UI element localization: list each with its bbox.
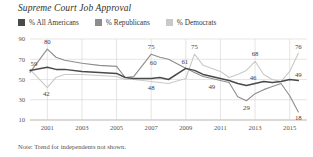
legend-label-2: % Democrats (177, 18, 217, 27)
data-label-80-0: 80 (44, 38, 51, 45)
line-chart-svg: 1030507090 20012003200520072009201120132… (0, 33, 313, 138)
chart-title: Supreme Court Job Approval (18, 3, 131, 13)
chart-footnote: Note: Trend for independents not shown. (18, 143, 126, 150)
data-label-68-9: 68 (252, 50, 259, 57)
data-label-42-2: 42 (43, 90, 50, 97)
x-tick-label-2009: 2009 (179, 124, 193, 131)
plot-area: 1030507090 20012003200520072009201120132… (0, 33, 313, 138)
y-tick-label-10: 10 (18, 116, 25, 123)
legend-item-2: % Democrats (166, 18, 217, 27)
data-label-46-10: 46 (250, 74, 257, 81)
data-label-29-11: 29 (243, 104, 250, 111)
chart-card: Supreme Court Job Approval % All America… (0, 0, 313, 157)
data-label-48-5: 48 (148, 84, 155, 91)
legend-label-0: % All Americans (29, 18, 79, 27)
data-label-75-6: 75 (191, 43, 198, 50)
x-tick-label-2007: 2007 (145, 124, 159, 131)
x-tick-label-2015: 2015 (283, 124, 297, 131)
data-label-49-8: 49 (208, 83, 215, 90)
x-tick-label-2001: 2001 (41, 124, 54, 131)
data-label-59-1: 59 (31, 60, 38, 67)
legend-swatch-all-americans (18, 19, 25, 26)
legend-swatch-democrats (166, 19, 173, 26)
data-label-18-14: 18 (295, 114, 302, 121)
series-lines-group (30, 49, 298, 112)
x-tick-label-2011: 2011 (214, 124, 227, 131)
chart-legend: % All Americans% Republicans% Democrats (18, 18, 232, 27)
x-axis-tick-labels: 20012003200520072009201120132015 (41, 124, 297, 131)
legend-item-0: % All Americans (18, 18, 79, 27)
legend-item-1: % Republicans (95, 18, 150, 27)
x-tick-label-2013: 2013 (248, 124, 262, 131)
data-label-60-4: 60 (150, 59, 157, 66)
y-tick-label-90: 90 (18, 35, 25, 42)
x-tick-label-2005: 2005 (110, 124, 124, 131)
legend-swatch-republicans (95, 19, 102, 26)
data-label-75-3: 75 (148, 43, 155, 50)
y-tick-label-70: 70 (18, 56, 25, 63)
data-label-49-13: 49 (295, 71, 302, 78)
data-label-76-12: 76 (295, 43, 302, 50)
series-line-republicans (30, 49, 298, 112)
y-axis-tick-labels: 1030507090 (18, 35, 25, 123)
data-label-61-7: 61 (181, 58, 188, 65)
legend-label-1: % Republicans (106, 18, 150, 27)
y-tick-label-30: 30 (18, 96, 25, 103)
y-tick-label-50: 50 (18, 76, 25, 83)
x-tick-label-2003: 2003 (75, 124, 89, 131)
